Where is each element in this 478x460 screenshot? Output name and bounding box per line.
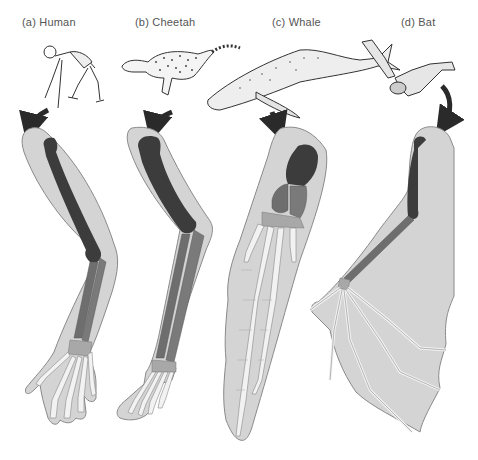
cheetah-figure-icon xyxy=(122,46,240,95)
bat-forelimb xyxy=(310,127,454,432)
whale-forelimb xyxy=(224,127,327,440)
carpal-bones xyxy=(152,360,176,372)
human-figure-icon xyxy=(44,46,104,108)
diagram-canvas xyxy=(0,0,478,460)
arrow-icon-bat xyxy=(442,86,450,124)
arrow-icon-human xyxy=(30,110,48,128)
cheetah-forelimb xyxy=(117,127,212,420)
human-forelimb xyxy=(22,128,118,425)
arrow-icon-cheetah xyxy=(154,112,172,128)
arrow-icon-whale xyxy=(272,112,278,128)
